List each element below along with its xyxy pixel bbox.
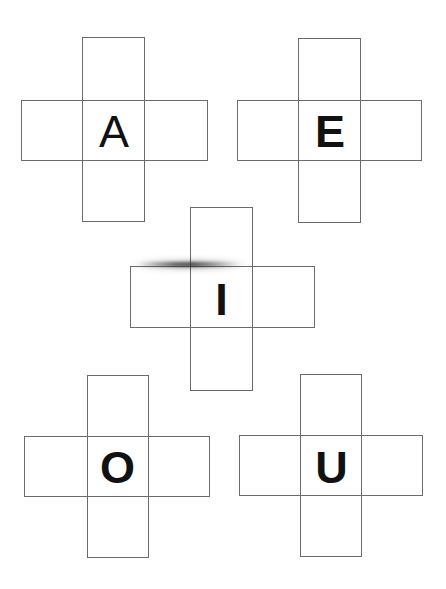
- card-u-letter: U: [300, 443, 363, 491]
- worksheet-page: A E I O U: [0, 0, 446, 589]
- cross-card-u[interactable]: U: [0, 0, 446, 589]
